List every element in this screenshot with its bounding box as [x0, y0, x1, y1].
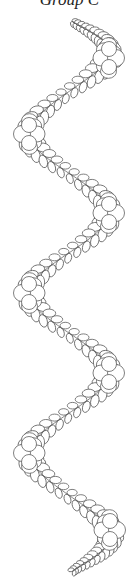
flower-petal [102, 357, 117, 372]
flower-petal [103, 514, 118, 529]
flower-petal [22, 136, 37, 151]
flower-petal [102, 42, 117, 57]
flower-petal [102, 60, 117, 75]
feather-vine-pattern [0, 0, 139, 582]
flower-petal [102, 375, 117, 390]
flower-petal [22, 455, 37, 470]
flower-petal [102, 197, 117, 212]
flower-petal [22, 295, 37, 310]
flower-petal [22, 437, 37, 452]
flower-petal [22, 277, 37, 292]
flower-petal [22, 118, 37, 133]
flower-petal [102, 215, 117, 230]
flower-petal [103, 532, 118, 547]
